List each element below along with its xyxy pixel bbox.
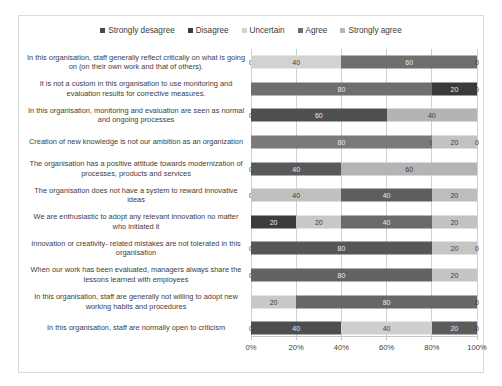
bar-segment[interactable]: 80 xyxy=(251,82,432,95)
chart-row: When our work has been evaluated, manage… xyxy=(27,262,477,289)
bar-segment-value: 20 xyxy=(450,139,458,146)
bar-segment[interactable]: 20 xyxy=(432,269,477,282)
bar-track: 040600 xyxy=(251,56,477,69)
bar-track: 800200 xyxy=(251,136,477,149)
bar-row: 080200 xyxy=(251,235,477,262)
legend-item[interactable]: Strongly agree xyxy=(340,26,401,35)
bar-segment-value: 40 xyxy=(292,192,300,199)
bar-segment[interactable]: 40 xyxy=(251,56,341,69)
bar-segment[interactable]: 80 xyxy=(251,269,432,282)
legend-item-label: Agree xyxy=(306,26,328,35)
chart-legend: Strongly desagreeDisagreeUncertainAgreeS… xyxy=(19,26,483,35)
x-axis-tick xyxy=(296,336,297,340)
x-axis-tick-label: 20% xyxy=(289,343,304,352)
chart-row: The organisation has a positive attitude… xyxy=(27,155,477,182)
category-label: It is not a custom in this organisation … xyxy=(27,79,251,99)
x-axis-tick-label: 40% xyxy=(334,343,349,352)
x-axis-tick xyxy=(386,336,387,340)
legend-item-label: Uncertain xyxy=(250,26,285,35)
bar-row: 0404020 xyxy=(251,182,477,209)
bar-segment-value: 20 xyxy=(450,218,458,225)
category-label: The organisation does not have a system … xyxy=(27,186,251,206)
bar-segment[interactable]: 80 xyxy=(296,295,477,308)
bar-segment-value: 20 xyxy=(315,218,323,225)
chart-row: Creation of new knowledge is not our amb… xyxy=(27,129,477,156)
legend-swatch-icon xyxy=(100,28,105,33)
bar-track: 08020 xyxy=(251,269,477,282)
category-label: In this organisation, staff are normally… xyxy=(27,323,251,333)
category-label: In this organisation, monitoring and eva… xyxy=(27,106,251,126)
bar-segment-value: 40 xyxy=(292,165,300,172)
bar-segment[interactable]: 40 xyxy=(251,162,341,175)
bar-segment[interactable]: 20 xyxy=(432,215,477,228)
x-axis-tick xyxy=(477,336,478,340)
x-axis-tick-label: 80% xyxy=(424,343,439,352)
bar-segment[interactable]: 80 xyxy=(251,136,432,149)
legend-item[interactable]: Uncertain xyxy=(242,26,285,35)
bar-segment[interactable]: 60 xyxy=(341,162,477,175)
bar-segment[interactable]: 20 xyxy=(432,189,477,202)
bar-segment-value: 20 xyxy=(450,192,458,199)
bar-segment[interactable]: 80 xyxy=(251,242,432,255)
bar-segment[interactable]: 40 xyxy=(341,322,431,335)
bar-segment[interactable]: 40 xyxy=(251,189,341,202)
bar-segment[interactable]: 20 xyxy=(432,136,477,149)
chart-frame: Strongly desagreeDisagreeUncertainAgreeS… xyxy=(18,15,484,373)
legend-item[interactable]: Disagree xyxy=(188,26,229,35)
category-label: We are enthusiastic to adopt any relevan… xyxy=(27,212,251,232)
bar-segment-value: 0 xyxy=(475,139,479,146)
chart-row: In this organisation, staff generally re… xyxy=(27,49,477,76)
bar-segment-value: 40 xyxy=(383,325,391,332)
bar-segment[interactable]: 60 xyxy=(341,56,477,69)
bar-segment[interactable]: 20 xyxy=(432,82,477,95)
chart-row: In this organisation, staff are generall… xyxy=(27,288,477,315)
bar-segment-value: 40 xyxy=(292,59,300,66)
bar-segment[interactable]: 20 xyxy=(432,242,477,255)
bar-segment[interactable]: 40 xyxy=(251,322,341,335)
bar-segment-value: 60 xyxy=(315,112,323,119)
bar-segment-value: 60 xyxy=(405,165,413,172)
bar-segment[interactable]: 20 xyxy=(251,295,296,308)
bar-segment[interactable]: 40 xyxy=(341,215,431,228)
chart-row: The organisation does not have a system … xyxy=(27,182,477,209)
bar-segment[interactable]: 20 xyxy=(251,215,296,228)
bar-segment-value: 40 xyxy=(428,112,436,119)
x-axis-tick-label: 60% xyxy=(379,343,394,352)
chart-row: We are enthusiastic to adopt any relevan… xyxy=(27,209,477,236)
category-label: The organisation has a positive attitude… xyxy=(27,159,251,179)
bar-segment-value: 80 xyxy=(338,245,346,252)
bar-row: 08020 xyxy=(251,262,477,289)
category-label: When our work has been evaluated, manage… xyxy=(27,265,251,285)
bar-segment[interactable]: 60 xyxy=(251,109,387,122)
legend-item[interactable]: Strongly desagree xyxy=(100,26,174,35)
legend-swatch-icon xyxy=(242,28,247,33)
bar-segment[interactable]: 40 xyxy=(387,109,477,122)
bar-segment-value: 20 xyxy=(270,298,278,305)
bar-track: 04040200 xyxy=(251,322,477,335)
bar-segment[interactable]: 40 xyxy=(341,189,431,202)
legend-item-label: Strongly agree xyxy=(348,26,401,35)
bar-track: 0404020 xyxy=(251,189,477,202)
bar-segment[interactable]: 20 xyxy=(432,322,477,335)
bar-segment-value: 80 xyxy=(338,139,346,146)
legend-item-label: Strongly desagree xyxy=(108,26,174,35)
category-label: In this organisation, staff generally re… xyxy=(27,53,251,73)
bar-segment-value: 20 xyxy=(450,245,458,252)
bar-segment-value: 40 xyxy=(383,192,391,199)
bar-track: 20800 xyxy=(251,295,477,308)
legend-item-label: Disagree xyxy=(196,26,229,35)
bar-row: 20800 xyxy=(251,288,477,315)
legend-item[interactable]: Agree xyxy=(298,26,328,35)
bar-segment-value: 80 xyxy=(338,272,346,279)
x-axis-tick xyxy=(341,336,342,340)
bar-segment-value: 20 xyxy=(450,85,458,92)
x-axis-tick xyxy=(251,336,252,340)
bar-row: 20204020 xyxy=(251,209,477,236)
x-axis-line xyxy=(251,336,477,337)
bar-segment-value: 0 xyxy=(475,59,479,66)
bar-track: 080200 xyxy=(251,242,477,255)
legend-swatch-icon xyxy=(188,28,193,33)
bar-track: 04060 xyxy=(251,162,477,175)
bar-segment[interactable]: 20 xyxy=(296,215,341,228)
category-label: Innovation or creativity- related mistak… xyxy=(27,239,251,259)
